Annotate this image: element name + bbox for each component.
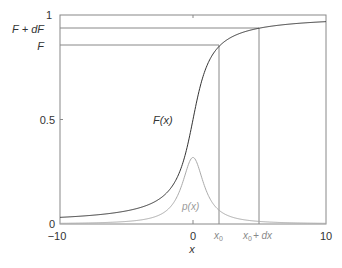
cdf-curve xyxy=(60,22,326,218)
y-label-05: 0.5 xyxy=(40,114,55,126)
y-label-F-plus-dF: F + dF xyxy=(12,23,45,35)
x0-label: x0 xyxy=(213,230,223,242)
y-label-0: 0 xyxy=(49,218,55,230)
x0-dx-label: x0+ dx xyxy=(242,230,273,242)
cdf-annotation: F(x) xyxy=(153,114,173,126)
x-axis-title: x xyxy=(188,243,195,255)
x-label-10: 10 xyxy=(320,230,332,242)
chart: 1 0.5 0 F + dF F −10 0 10 x x0 x0+ dx F(… xyxy=(0,0,342,268)
x-label-0: 0 xyxy=(190,230,196,242)
pdf-curve xyxy=(60,157,326,223)
y-label-1: 1 xyxy=(46,9,52,21)
y-label-F: F xyxy=(37,40,45,52)
x-label-m10: −10 xyxy=(48,230,67,242)
pdf-annotation: p(x) xyxy=(181,201,199,212)
